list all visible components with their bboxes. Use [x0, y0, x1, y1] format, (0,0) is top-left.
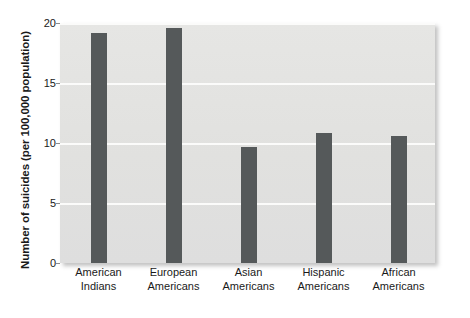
bar — [91, 33, 107, 263]
y-axis-tick-mark — [56, 263, 60, 264]
bar — [316, 133, 332, 263]
bar — [166, 28, 182, 263]
x-axis-tick-label: AfricanAmericans — [344, 266, 454, 293]
y-axis-tick-label: 20 — [30, 17, 56, 29]
bar — [391, 136, 407, 263]
x-axis-tick-label-line: Americans — [344, 280, 454, 294]
y-axis-tick-label: 15 — [30, 77, 56, 89]
y-axis-tick-label: 10 — [30, 137, 56, 149]
x-axis-tick-labels: AmericanIndiansEuropeanAmericansAsianAme… — [60, 266, 435, 316]
y-axis-tick-label: 5 — [30, 197, 56, 209]
bar — [241, 147, 257, 263]
plot-area — [60, 23, 435, 263]
gridline — [60, 23, 435, 25]
x-axis-tick-label-line: African — [344, 266, 454, 280]
gridline — [60, 83, 435, 85]
bar-chart: Number of suicides (per 100,000 populati… — [0, 0, 470, 318]
gridline — [60, 143, 435, 145]
